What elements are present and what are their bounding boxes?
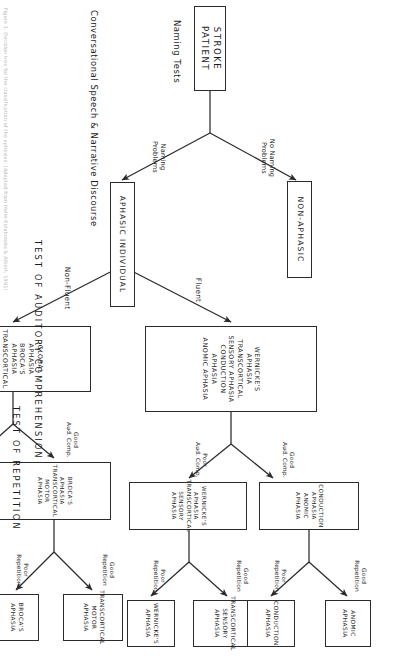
node-aphasic-individual[interactable]: APHASIC INDIVIDUAL — [110, 182, 135, 307]
node-fluent-good-comp[interactable]: CONDUCTION APHASIA ANOMIC APHASIA — [259, 482, 359, 530]
edge-label-non-fluent: Non-Fluent — [63, 258, 72, 318]
node-leaf-conduction[interactable]: CONDUCTION APHASIA — [247, 600, 295, 647]
edge-label-transcortical-motor-good-repetition: Good Repetition — [101, 546, 115, 594]
node-nonfluent-group[interactable]: GLOBAL APHASIA BROCA'S APHASIA TRANSCORT… — [0, 326, 91, 392]
node-leaf-anomic-label: ANOMIC APHASIA — [340, 606, 356, 641]
stem-label-conversational-speech: Conversational Speech & Narrative Discou… — [89, 10, 99, 227]
node-non-aphasic[interactable]: NON-APHASIC — [287, 181, 312, 278]
stem-label-naming-tests: Naming Tests — [172, 20, 182, 83]
edge-label-transcortical-sensory-good-repetition: Good Repetition — [235, 552, 249, 600]
node-fluent-poor-comp[interactable]: WERNICKE'S APHASIA TRANSCORTICAL SENSORY… — [129, 482, 247, 530]
node-leaf-transcortical-sensory-label: TRANSCORTICAL SENSORY APHASIA — [212, 593, 235, 654]
node-leaf-conduction-label: CONDUCTION APHASIA — [263, 598, 279, 649]
edge-label-naming-problems: Naming Problems — [151, 127, 167, 187]
node-fluent-good-comp-label: CONDUCTION APHASIA ANOMIC APHASIA — [294, 481, 324, 530]
edge-label-nonfluent-good-comp: Good Aud. Comp. — [65, 416, 79, 464]
node-fluent-group-label: WERNICKE'S APHASIA TRANSCORTICAL SENSORY… — [201, 327, 261, 411]
node-fluent-poor-comp-label: WERNICKE'S APHASIA TRANSCORTICAL SENSORY… — [169, 477, 207, 536]
edge-label-fluent-poor-comp: Poor Aud. Comp. — [194, 436, 208, 484]
figure-canvas: STROKE PATIENT NON-APHASIC APHASIC INDIV… — [0, 0, 399, 656]
node-leaf-brocas[interactable]: BROCA'S APHASIA — [0, 594, 39, 641]
node-leaf-brocas-label: BROCA'S APHASIA — [8, 600, 24, 635]
node-leaf-anomic[interactable]: ANOMIC APHASIA — [325, 600, 371, 647]
node-leaf-wernickes-label: WERNICKE'S APHASIA — [143, 600, 159, 647]
edge-label-anomic-good-repetition: Good Repetition — [353, 552, 367, 600]
edge-label-conduction-poor-repetition: Poor Repetition — [273, 552, 287, 600]
node-fluent-group[interactable]: WERNICKE'S APHASIA TRANSCORTICAL SENSORY… — [145, 326, 317, 412]
edge-label-no-naming-problems: No Naming Problems — [260, 127, 276, 189]
node-leaf-wernickes[interactable]: WERNICKE'S APHASIA — [127, 600, 175, 647]
node-nonfluent-good-comp-label: BROCA'S APHASIA TRANSCORTICAL MOTOR APHA… — [35, 462, 73, 521]
edge-label-fluent-good-comp: Good Aud. Comp. — [281, 436, 295, 484]
section-label-auditory-comprehension: TEST OF AUDITORY COMPREHENSION — [33, 240, 43, 460]
node-stroke-patient[interactable]: STROKE PATIENT — [194, 6, 226, 91]
node-stroke-patient-label: STROKE PATIENT — [198, 7, 221, 90]
edge-label-brocas-poor-repetition: Poor Repetition — [15, 546, 29, 594]
edge-label-wernickes-poor-repetition: Poor Repetition — [152, 552, 166, 600]
figure-caption: Figure 1. Decision tree for the classifi… — [3, 8, 9, 291]
node-leaf-transcortical-motor-label: TRANSCORTICAL MOTOR APHASIA — [81, 587, 104, 648]
section-label-repetition: TEST OF REPETITION — [11, 406, 21, 531]
node-non-aphasic-label: NON-APHASIC — [294, 193, 304, 265]
node-leaf-transcortical-motor[interactable]: TRANSCORTICAL MOTOR APHASIA — [63, 594, 123, 641]
node-aphasic-individual-label: APHASIC INDIVIDUAL — [118, 193, 128, 296]
edge-label-fluent: Fluent — [194, 268, 203, 312]
node-leaf-transcortical-sensory[interactable]: TRANSCORTICAL SENSORY APHASIA — [193, 600, 255, 647]
